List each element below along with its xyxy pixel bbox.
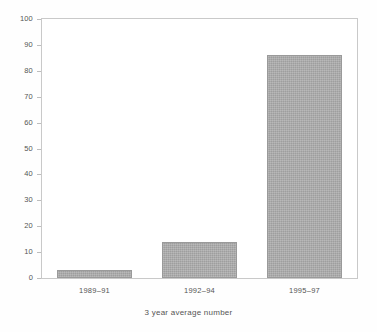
x-axis: 1989–911992–941995–97 <box>42 286 357 300</box>
y-axis-tick-mark <box>37 226 41 227</box>
x-axis-tick-label: 1995–97 <box>289 286 320 296</box>
bar <box>162 242 238 278</box>
y-axis-tick-label: 80 <box>24 66 33 75</box>
y-axis-tick-label: 30 <box>24 195 33 204</box>
y-axis-tick-label: 50 <box>24 144 33 153</box>
y-axis-tick-mark <box>37 174 41 175</box>
y-axis-tick-label: 90 <box>24 40 33 49</box>
y-axis-tick-mark <box>37 123 41 124</box>
y-axis-tick-mark <box>37 149 41 150</box>
y-axis-tick-label: 0 <box>29 273 33 282</box>
bar-chart: 0102030405060708090100 1989–911992–94199… <box>0 0 377 332</box>
x-axis-title: 3 year average number <box>0 307 377 318</box>
y-axis-tick-mark <box>37 97 41 98</box>
y-axis: 0102030405060708090100 <box>0 0 41 332</box>
y-axis-tick-label: 10 <box>24 247 33 256</box>
bars-container <box>42 19 357 278</box>
y-axis-tick-mark <box>37 278 41 279</box>
x-axis-tick-label: 1992–94 <box>184 286 215 296</box>
y-axis-tick-mark <box>37 252 41 253</box>
y-axis-tick-label: 40 <box>24 169 33 178</box>
x-axis-tick-label: 1989–91 <box>79 286 110 296</box>
y-axis-tick-label: 100 <box>20 14 33 23</box>
y-axis-tick-label: 70 <box>24 92 33 101</box>
y-axis-tick-mark <box>37 200 41 201</box>
y-axis-tick-label: 20 <box>24 221 33 230</box>
y-axis-tick-mark <box>37 19 41 20</box>
bar <box>57 270 133 278</box>
y-axis-tick-label: 60 <box>24 118 33 127</box>
y-axis-tick-mark <box>37 71 41 72</box>
y-axis-tick-mark <box>37 45 41 46</box>
bar <box>267 55 343 278</box>
